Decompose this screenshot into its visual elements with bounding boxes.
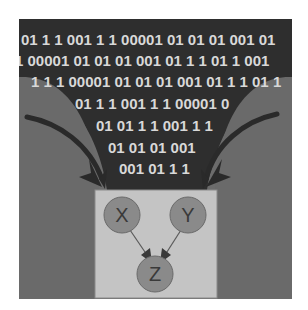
- binary-line-5: 01 01 1 1 001 1 1: [96, 117, 213, 134]
- binary-to-causal-graph-illustration: 01 1 1 001 1 1 00001 01 01 01 001 01 1 0…: [19, 19, 292, 299]
- node-x-label: X: [115, 204, 128, 226]
- illustration-canvas: 01 1 1 001 1 1 00001 01 01 01 001 01 1 0…: [19, 19, 292, 299]
- node-y-label: Y: [181, 204, 194, 226]
- node-y: Y: [170, 197, 206, 233]
- binary-line-2: 1 00001 01 01 01 001 01 1 1 01 1 001: [19, 52, 269, 69]
- binary-line-7: 001 01 1 1: [119, 160, 190, 177]
- node-z-label: Z: [149, 263, 161, 285]
- node-x: X: [104, 197, 140, 233]
- binary-line-3: 1 1 1 00001 01 01 01 001 01 1 1 01 1: [31, 73, 281, 90]
- binary-line-1: 01 1 1 001 1 1 00001 01 01 01 001 01: [21, 31, 275, 48]
- binary-line-6: 01 01 01 001: [108, 139, 196, 156]
- node-z: Z: [137, 256, 173, 292]
- binary-line-4: 01 1 1 001 1 1 00001 0: [75, 95, 229, 112]
